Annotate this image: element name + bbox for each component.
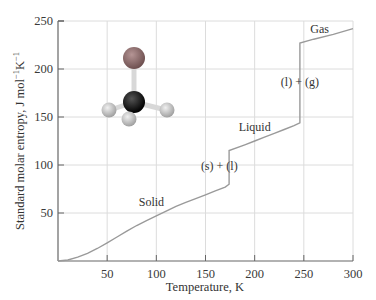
top-atom-icon bbox=[123, 47, 145, 69]
phase-label: Gas bbox=[310, 22, 329, 36]
central-atom-icon bbox=[123, 91, 145, 113]
molecule-model-icon bbox=[102, 47, 175, 127]
phase-label: (l) + (g) bbox=[281, 75, 319, 89]
entropy-chart: 5010015020025030050100150200250 Solid( bbox=[0, 0, 376, 300]
x-tick-label: 200 bbox=[245, 267, 264, 281]
y-tick-label: 250 bbox=[34, 14, 53, 28]
x-tick-label: 300 bbox=[344, 267, 363, 281]
y-tick-label: 150 bbox=[34, 110, 53, 124]
front-atom-icon bbox=[122, 112, 137, 127]
y-axis-label: Standard molar entropy, J mol−1K−1 bbox=[11, 52, 27, 230]
phase-label: (s) + (l) bbox=[201, 159, 238, 173]
phase-label: Liquid bbox=[239, 120, 271, 134]
right-atom-icon bbox=[160, 103, 175, 118]
x-axis-label: Temperature, K bbox=[166, 280, 244, 294]
tick-labels: 5010015020025030050100150200250 bbox=[34, 14, 362, 281]
y-tick-label: 200 bbox=[34, 62, 53, 76]
grid-lines bbox=[58, 21, 353, 261]
x-tick-label: 50 bbox=[101, 267, 114, 281]
left-atom-icon bbox=[102, 103, 117, 118]
x-tick-label: 250 bbox=[294, 267, 313, 281]
y-tick-label: 50 bbox=[41, 206, 54, 220]
x-tick-label: 150 bbox=[196, 267, 215, 281]
phase-label: Solid bbox=[139, 195, 164, 209]
y-tick-label: 100 bbox=[34, 158, 53, 172]
x-tick-label: 100 bbox=[147, 267, 166, 281]
